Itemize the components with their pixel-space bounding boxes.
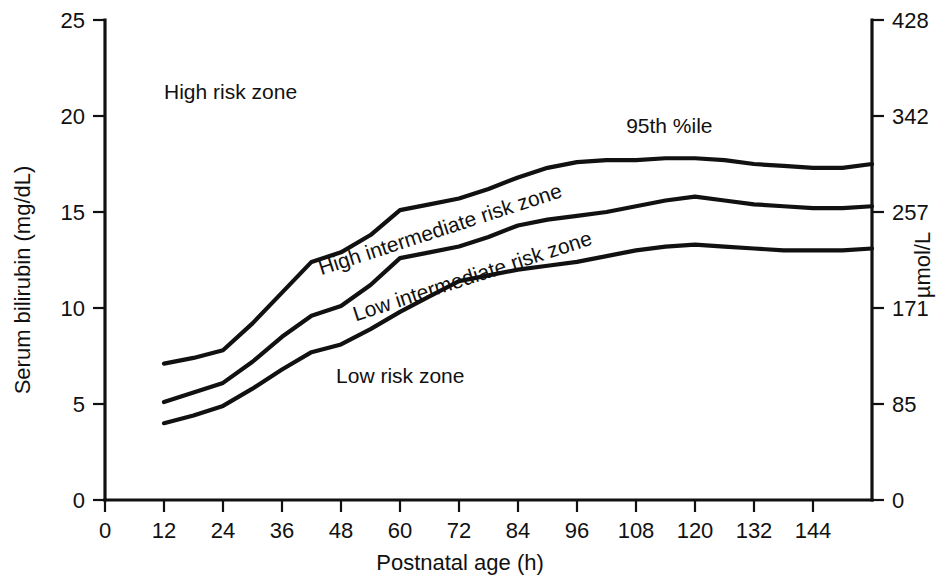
y-axis-left-title: Serum bilirubin (mg/dL) <box>10 166 35 395</box>
x-tick-label: 108 <box>618 518 655 543</box>
x-tick-label: 60 <box>388 518 412 543</box>
x-axis-title: Postnatal age (h) <box>376 550 544 575</box>
risk-curve <box>164 197 872 402</box>
y-axis-right-title: µmol/L <box>910 232 935 298</box>
y-axis-left-ticks: 0510152025 <box>61 8 105 513</box>
y-tick-label-left: 0 <box>73 488 85 513</box>
y-tick-label-left: 15 <box>61 200 85 225</box>
zone-annotations: High risk zone95th %ileHigh intermediate… <box>164 80 713 387</box>
x-axis-ticks: 01224364860728496108120132144 <box>99 500 831 543</box>
percentile-95-label: 95th %ile <box>626 114 712 137</box>
y-tick-label-right: 171 <box>892 296 929 321</box>
low-risk-zone-label: Low risk zone <box>336 364 464 387</box>
y-tick-label-right: 85 <box>892 392 916 417</box>
y-tick-label-right: 0 <box>892 488 904 513</box>
x-tick-label: 72 <box>447 518 471 543</box>
x-tick-label: 36 <box>270 518 294 543</box>
bhutani-nomogram-chart: 0510152025 085171257342428 0122436486072… <box>0 0 946 578</box>
y-tick-label-right: 428 <box>892 8 929 33</box>
y-tick-label-left: 25 <box>61 8 85 33</box>
y-tick-label-right: 257 <box>892 200 929 225</box>
y-tick-label-left: 5 <box>73 392 85 417</box>
x-tick-label: 24 <box>211 518 235 543</box>
y-tick-label-left: 10 <box>61 296 85 321</box>
x-tick-label: 144 <box>795 518 832 543</box>
x-tick-label: 120 <box>677 518 714 543</box>
x-tick-label: 0 <box>99 518 111 543</box>
high-risk-zone-label: High risk zone <box>164 80 297 103</box>
x-tick-label: 84 <box>506 518 530 543</box>
chart-canvas: 0510152025 085171257342428 0122436486072… <box>0 0 946 578</box>
x-tick-label: 96 <box>565 518 589 543</box>
x-tick-label: 12 <box>152 518 176 543</box>
x-tick-label: 48 <box>329 518 353 543</box>
y-tick-label-left: 20 <box>61 104 85 129</box>
y-tick-label-right: 342 <box>892 104 929 129</box>
x-tick-label: 132 <box>736 518 773 543</box>
